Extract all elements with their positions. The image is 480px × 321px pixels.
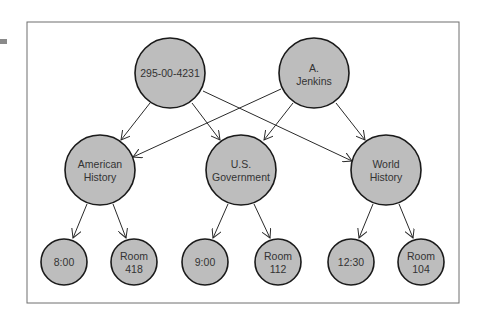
node-time-1230: 12:30 — [328, 239, 374, 285]
node-american-history: American History — [65, 135, 135, 205]
node-label: 295-00-4231 — [140, 67, 200, 79]
node-room-418: Room 418 — [111, 239, 157, 285]
node-label: 12:30 — [338, 256, 364, 268]
node-time-800: 8:00 — [41, 239, 87, 285]
node-world-history: World History — [351, 135, 421, 205]
node-label: U.S. — [231, 158, 251, 170]
node-label: Government — [212, 171, 270, 183]
node-label: 418 — [125, 263, 143, 275]
node-label: World — [372, 158, 399, 170]
node-room-112: Room 112 — [255, 239, 301, 285]
node-label: Room — [264, 250, 292, 262]
diagram-canvas: 295-00-4231 A. Jenkins American History … — [0, 0, 480, 321]
node-label: 112 — [270, 263, 287, 275]
node-label: A. — [309, 62, 319, 74]
node-label: 104 — [412, 263, 430, 275]
node-label: Room — [407, 250, 435, 262]
node-label: 9:00 — [195, 256, 216, 268]
node-ssn: 295-00-4231 — [135, 38, 205, 108]
node-label: Jenkins — [296, 75, 332, 87]
node-label: American — [78, 158, 123, 170]
node-label: Room — [120, 250, 148, 262]
node-label: History — [84, 171, 117, 183]
node-label: History — [370, 171, 403, 183]
node-us-government: U.S. Government — [206, 135, 276, 205]
node-time-900: 9:00 — [182, 239, 228, 285]
node-jenkins: A. Jenkins — [279, 38, 349, 108]
node-label: 8:00 — [54, 256, 75, 268]
node-room-104: Room 104 — [398, 239, 444, 285]
